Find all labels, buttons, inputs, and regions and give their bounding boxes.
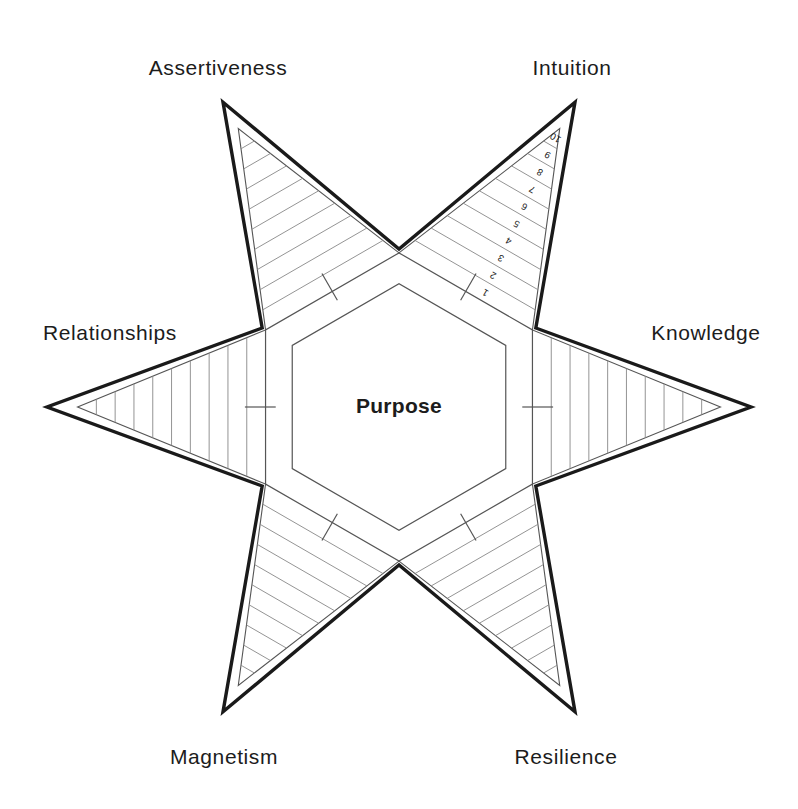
star-diagram: 12345678910 Assertiveness Intuition Rela… (0, 0, 798, 809)
axis-label-intuition: Intuition (533, 56, 612, 80)
axis-label-knowledge: Knowledge (651, 321, 760, 345)
axis-label-assertiveness: Assertiveness (149, 56, 288, 80)
center-label-purpose: Purpose (356, 394, 442, 418)
axis-label-resilience: Resilience (515, 745, 618, 769)
axis-label-magnetism: Magnetism (170, 745, 278, 769)
axis-label-relationships: Relationships (43, 321, 177, 345)
